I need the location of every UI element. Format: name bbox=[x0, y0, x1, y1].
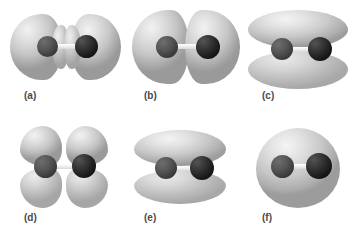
atom-right bbox=[190, 156, 214, 180]
atom-right bbox=[308, 37, 332, 61]
atom-right bbox=[196, 35, 220, 59]
atom-right bbox=[75, 35, 98, 58]
lobe-lower bbox=[248, 51, 348, 89]
panel-d: (d) bbox=[8, 124, 123, 236]
atom-left bbox=[37, 36, 58, 57]
atom-left bbox=[155, 157, 177, 179]
lobe-lower bbox=[134, 170, 226, 204]
atom-right bbox=[306, 153, 332, 179]
panel-f-caption: (f) bbox=[262, 212, 272, 223]
panel-e: (e) bbox=[128, 124, 243, 236]
panel-a: (a) bbox=[8, 6, 123, 114]
atom-left bbox=[156, 36, 178, 58]
molecular-orbital-figure: (a) (b) (c) bbox=[0, 0, 359, 242]
panel-c-caption: (c) bbox=[262, 90, 274, 101]
panel-b-caption: (b) bbox=[144, 90, 157, 101]
atom-left bbox=[34, 155, 57, 178]
panel-f: (f) bbox=[246, 124, 358, 236]
atom-left bbox=[271, 155, 294, 178]
panel-d-caption: (d) bbox=[24, 212, 37, 223]
panel-b: (b) bbox=[128, 6, 243, 114]
atom-right bbox=[72, 154, 96, 178]
atom-left bbox=[271, 38, 293, 60]
panel-c: (c) bbox=[246, 6, 358, 114]
panel-a-caption: (a) bbox=[24, 90, 36, 101]
lobe-upper bbox=[248, 10, 348, 48]
lobe-upper bbox=[134, 130, 226, 166]
panel-e-caption: (e) bbox=[144, 212, 156, 223]
